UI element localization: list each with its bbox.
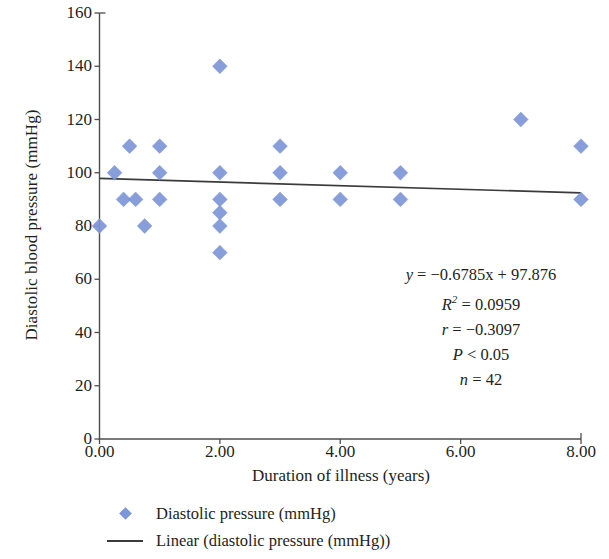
p-label: P <box>453 345 463 364</box>
r-squared-value: = 0.0959 <box>461 295 520 314</box>
scatter-chart-figure: Diastolic blood pressure (mmHg) 02040608… <box>0 0 609 559</box>
n-value: = 42 <box>472 370 502 389</box>
scatter-point <box>273 139 288 154</box>
scatter-point <box>333 165 348 180</box>
x-tick-label: 0.00 <box>65 443 135 460</box>
x-tick-label: 6.00 <box>426 443 496 460</box>
equation-rhs: = −0.6785x + 97.876 <box>417 265 556 284</box>
scatter-point <box>273 192 288 207</box>
diamond-marker-icon <box>94 509 156 518</box>
scatter-point <box>128 192 143 207</box>
scatter-point <box>212 245 227 260</box>
legend-item-trendline: Linear (diastolic pressure (mmHg)) <box>0 527 609 554</box>
scatter-point <box>212 59 227 74</box>
scatter-point <box>393 165 408 180</box>
line-swatch-icon <box>94 540 156 542</box>
scatter-point <box>513 112 528 127</box>
scatter-point <box>152 165 167 180</box>
r-label: r <box>442 320 448 339</box>
scatter-point <box>137 219 152 234</box>
p-stat: P < 0.05 <box>368 342 594 367</box>
scatter-point <box>152 139 167 154</box>
regression-equation: y = −0.6785x + 97.876 <box>368 262 594 287</box>
x-tick-label: 4.00 <box>305 443 375 460</box>
scatter-point <box>212 192 227 207</box>
scatter-point <box>212 205 227 220</box>
x-axis-tick-labels: 0.002.004.006.008.00 <box>0 443 609 467</box>
equation-lhs: y <box>406 265 413 284</box>
chart-legend: Diastolic pressure (mmHg) Linear (diasto… <box>0 500 609 554</box>
r-squared-stat: R2 = 0.0959 <box>368 287 594 317</box>
r-stat: r = −0.3097 <box>368 317 594 342</box>
scatter-point <box>122 139 137 154</box>
r-squared-exponent: 2 <box>452 293 458 305</box>
n-stat: n = 42 <box>368 367 594 392</box>
legend-item-label: Diastolic pressure (mmHg) <box>156 504 336 524</box>
scatter-point <box>92 219 107 234</box>
x-tick-label: 2.00 <box>185 443 255 460</box>
trendline <box>100 178 582 192</box>
scatter-point <box>273 165 288 180</box>
r-squared-label: R <box>442 295 452 314</box>
statistics-annotation: y = −0.6785x + 97.876 R2 = 0.0959 r = −0… <box>368 262 594 392</box>
scatter-point <box>212 219 227 234</box>
legend-item-label: Linear (diastolic pressure (mmHg)) <box>156 531 390 551</box>
r-value: = −0.3097 <box>452 320 520 339</box>
scatter-point <box>574 192 589 207</box>
p-value: < 0.05 <box>467 345 509 364</box>
scatter-point <box>152 192 167 207</box>
scatter-points <box>92 59 588 260</box>
scatter-point <box>212 165 227 180</box>
x-tick-label: 8.00 <box>546 443 609 460</box>
scatter-point <box>574 139 589 154</box>
x-axis-title: Duration of illness (years) <box>100 466 582 486</box>
n-label: n <box>460 370 468 389</box>
scatter-point <box>333 192 348 207</box>
scatter-point <box>393 192 408 207</box>
legend-item-scatter: Diastolic pressure (mmHg) <box>0 500 609 527</box>
